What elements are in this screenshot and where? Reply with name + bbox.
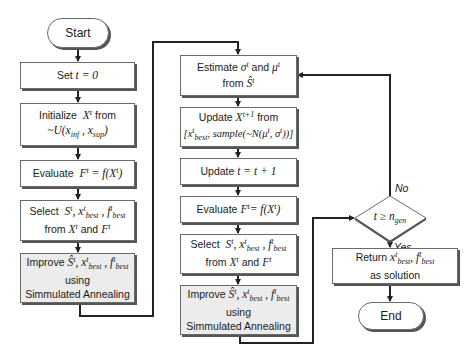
improve-box-left: Improve Ŝt, xtbest , ftbest using Simmul… [20, 253, 135, 303]
improve-line2-right: using [226, 305, 251, 319]
return-line2: as solution [370, 268, 420, 282]
evaluate-box-left: Evaluate Ft = f(Xt) [20, 160, 135, 187]
update-x-line1: Update Xt+1 from [199, 110, 278, 126]
improve-line1-left: Improve Ŝt, xtbest , ftbest [27, 255, 129, 273]
no-label: No [395, 182, 408, 194]
arrow-no-branch [298, 75, 390, 196]
return-line1: Return xtbest, ftbest [356, 250, 435, 268]
evaluate-text-right: Evaluate Ft= f(Xt) [197, 202, 281, 218]
update-t-box: Update t = t + 1 [180, 158, 297, 185]
evaluate-text-left: Evaluate Ft = f(Xt) [33, 166, 123, 182]
select-line2-right: from Xt and Ft [206, 255, 272, 271]
update-x-line2: [xtbest, sample(~N(μt, σt))] [184, 126, 294, 144]
update-x-box: Update Xt+1 from [xtbest, sample(~N(μt, … [180, 107, 297, 147]
return-box: Return xtbest, ftbest as solution [332, 248, 458, 284]
evaluate-box-right: Evaluate Ft= f(Xt) [180, 196, 297, 223]
update-t-text: Update t = t + 1 [201, 164, 277, 180]
end-label: End [380, 308, 401, 324]
select-line2-left: from Xt and Ft [45, 222, 111, 238]
improve-line1-right: Improve Ŝt, xtbest , ftbest [188, 287, 290, 305]
initialize-box: Initialize Xt from ~U(xinf , xsup) [20, 103, 135, 146]
start-terminal: Start [47, 18, 109, 48]
initialize-line1: Initialize Xt from [39, 108, 116, 124]
improve-box-right: Improve Ŝt, xtbest , ftbest using Simmul… [180, 285, 297, 335]
select-line1-left: Select St, xtbest , ftbest [30, 204, 126, 222]
decision-condition: t ≥ ngen [360, 210, 420, 225]
improve-line3-left: Simmulated Annealing [25, 287, 129, 301]
improve-line2-left: using [65, 273, 90, 287]
select-box-right: Select St, xtbest , ftbest from Xt and F… [180, 234, 297, 274]
set-t-text: Set t = 0 [57, 68, 98, 84]
end-terminal: End [358, 302, 424, 330]
estimate-line2: from Ŝt [223, 76, 255, 92]
select-box-left: Select St, xtbest , ftbest from Xt and F… [20, 200, 135, 241]
initialize-line2: ~U(xinf , xsup) [47, 123, 108, 141]
set-t-box: Set t = 0 [20, 62, 135, 89]
improve-line3-right: Simmulated Annealing [186, 319, 290, 333]
select-line1-right: Select St, xtbest , ftbest [191, 237, 287, 255]
estimate-box: Estimate σt and μt from Ŝt [180, 55, 297, 96]
start-label: Start [65, 25, 90, 41]
estimate-line1: Estimate σt and μt [197, 60, 280, 76]
